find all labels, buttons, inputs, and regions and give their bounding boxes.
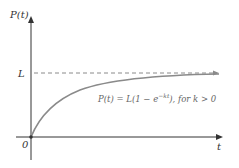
equation-main: P(t) = L(1 − e [98,94,158,104]
origin-label: 0 [22,139,28,150]
plot-area [0,0,239,168]
equation-exponent: −kt [158,92,169,99]
asymptote-label: L [18,68,25,79]
y-axis-label: P(t) [10,9,29,20]
growth-curve [31,74,219,137]
x-axis-arrow-icon [216,134,223,140]
origin-point [29,135,33,139]
equation-label: P(t) = L(1 − e−kt), for k > 0 [98,92,216,104]
chart: P(t) L 0 t P(t) = L(1 − e−kt), for k > 0 [0,0,239,168]
equation-tail: ), for k > 0 [169,94,216,104]
x-axis-label: t [217,141,221,152]
